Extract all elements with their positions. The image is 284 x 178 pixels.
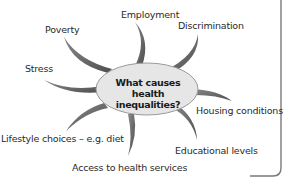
spoke-stress — [44, 80, 103, 93]
label-employment: Employment — [121, 9, 179, 20]
label-educational: Educational levels — [175, 145, 258, 156]
label-lifestyle: Lifestyle choices – e.g. diet — [1, 133, 124, 144]
label-poverty: Poverty — [45, 24, 80, 35]
spoke-access — [128, 114, 135, 156]
center-question-line2: inequalities? — [100, 99, 196, 110]
label-stress: Stress — [25, 63, 53, 74]
center-question-line1: What causes health — [100, 77, 196, 99]
spoke-employment — [135, 22, 145, 66]
label-housing: Housing conditions — [196, 105, 283, 116]
spoke-poverty — [64, 37, 112, 73]
label-access: Access to health services — [72, 162, 187, 173]
label-discrimination: Discrimination — [178, 20, 244, 31]
center-question: What causes health inequalities? — [100, 77, 196, 110]
